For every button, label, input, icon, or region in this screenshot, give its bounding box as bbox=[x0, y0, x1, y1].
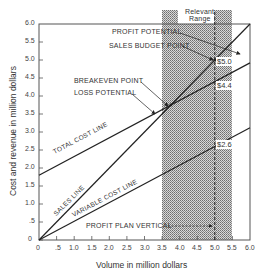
relevant-range-label: Relevant bbox=[185, 8, 214, 15]
x-tick-0.5: .5 bbox=[55, 244, 61, 251]
x-axis-title: Volume in million dollars bbox=[96, 260, 187, 270]
sales-budget-point-label: SALES BUDGET POINT bbox=[109, 42, 190, 49]
sales-value-label: $5.0 bbox=[216, 57, 233, 66]
y-tick-1.5: 1.5 bbox=[25, 181, 35, 188]
y-axis-title: Cost and revenue in million dollars bbox=[8, 66, 18, 196]
y-tick-0.5: .5 bbox=[29, 217, 35, 224]
total-cost-value-label: $4.4 bbox=[216, 81, 233, 90]
x-tick-2.5: 2.5 bbox=[122, 244, 132, 251]
x-tick-3.5: 3.5 bbox=[157, 244, 167, 251]
breakeven-point-marker bbox=[170, 104, 173, 107]
profit-plan-vertical-label: PROFIT PLAN VERTICAL bbox=[86, 222, 172, 229]
y-tick-2.5: 2.5 bbox=[25, 145, 35, 152]
y-tick-6.0: 6.0 bbox=[25, 19, 35, 26]
y-tick-3.0: 3.0 bbox=[25, 127, 35, 134]
y-tick-1.0: 1.0 bbox=[25, 199, 35, 206]
x-tick-4.5: 4.5 bbox=[192, 244, 202, 251]
loss-potential-arrow bbox=[132, 94, 155, 114]
y-tick-4.5: 4.5 bbox=[25, 73, 35, 80]
y-tick-5.0: 5.0 bbox=[25, 55, 35, 62]
variable-cost-value-label: $2.6 bbox=[216, 140, 233, 149]
profit-potential-label: PROFIT POTENTIAL bbox=[112, 28, 182, 35]
x-tick-1.0: 1.0 bbox=[69, 244, 79, 251]
x-tick-5.5: 5.5 bbox=[227, 244, 237, 251]
x-tick-5.0: 5.0 bbox=[210, 244, 220, 251]
y-axis-ticks bbox=[39, 42, 43, 240]
x-tick-2.0: 2.0 bbox=[104, 244, 114, 251]
x-tick-1.5: 1.5 bbox=[87, 244, 97, 251]
x-tick-4.0: 4.0 bbox=[175, 244, 185, 251]
y-tick-4.0: 4.0 bbox=[25, 91, 35, 98]
y-tick-0: 0 bbox=[28, 235, 32, 242]
loss-potential-label: LOSS POTENTIAL bbox=[74, 89, 136, 96]
x-tick-0: 0 bbox=[36, 244, 40, 251]
y-tick-3.5: 3.5 bbox=[25, 109, 35, 116]
x-tick-6.0: 6.0 bbox=[245, 244, 255, 251]
relevant-range-label-2: Range bbox=[189, 15, 211, 22]
breakeven-point-label: BREAKEVEN POINT bbox=[74, 77, 143, 84]
y-tick-5.5: 5.5 bbox=[25, 37, 35, 44]
x-tick-3.0: 3.0 bbox=[140, 244, 150, 251]
y-tick-2.0: 2.0 bbox=[25, 163, 35, 170]
